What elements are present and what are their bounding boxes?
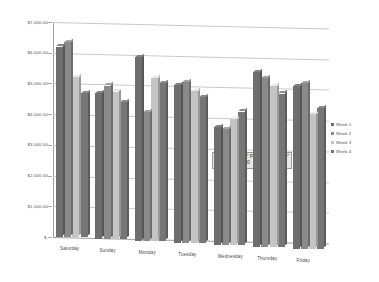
bar-face xyxy=(270,86,277,247)
bar-top xyxy=(214,125,223,127)
bar-face xyxy=(253,72,260,247)
legend-label: Week 2 xyxy=(336,131,351,136)
bar-side xyxy=(316,111,318,247)
legend-item-week-4[interactable]: Week 4 xyxy=(331,147,377,156)
bar-side xyxy=(245,108,247,243)
bar-top xyxy=(270,84,279,86)
bar-face xyxy=(56,47,63,237)
legend-item-week-3[interactable]: Week 3 xyxy=(331,138,377,147)
bar-face xyxy=(191,91,198,243)
bar-side xyxy=(324,105,326,247)
bar-side xyxy=(119,88,121,236)
bar-week-2-sunday[interactable] xyxy=(104,86,111,240)
chart-3d-clustered-column: $-$1,000.00$2,000.00$3,000.00$4,000.00$5… xyxy=(0,0,379,282)
bar-side xyxy=(63,43,65,234)
bar-side xyxy=(221,124,223,243)
bar-side xyxy=(150,109,152,239)
bar-side xyxy=(158,75,160,239)
bar-side xyxy=(111,82,113,237)
bar-face xyxy=(81,93,88,237)
bar-week-1-sunday[interactable] xyxy=(95,93,102,239)
bar-side xyxy=(277,83,279,245)
bar-side xyxy=(88,90,90,235)
bar-week-3-thursday[interactable] xyxy=(270,86,277,247)
x-axis-label-monday: Monday xyxy=(139,250,156,255)
bar-week-4-monday[interactable] xyxy=(159,83,166,241)
bar-side xyxy=(308,80,310,247)
bar-side xyxy=(206,94,208,241)
bar-week-1-tuesday[interactable] xyxy=(174,85,181,243)
x-axis-label-friday: Friday xyxy=(297,258,310,263)
chart-legend: Week 1Week 2Week 3Week 4 xyxy=(331,120,377,156)
bar-week-2-tuesday[interactable] xyxy=(182,82,189,243)
bar-week-1-monday[interactable] xyxy=(135,57,142,241)
bar-face xyxy=(104,86,111,240)
legend-item-week-2[interactable]: Week 2 xyxy=(331,129,377,138)
legend-swatch-icon xyxy=(331,150,334,153)
legend-label: Week 1 xyxy=(336,122,351,127)
legend-swatch-icon xyxy=(331,123,334,126)
bar-week-1-saturday[interactable] xyxy=(56,47,63,237)
bar-side xyxy=(198,88,200,241)
legend-swatch-icon xyxy=(331,132,334,135)
x-axis-label-tuesday: Tuesday xyxy=(178,252,196,257)
x-axis-label-wednesday: Wednesday xyxy=(218,254,243,259)
bar-side xyxy=(268,75,270,245)
bar-side xyxy=(260,69,262,245)
bar-side xyxy=(237,116,239,243)
bar-side xyxy=(285,90,287,245)
x-axis-label-sunday: Sunday xyxy=(99,248,115,253)
bar-side xyxy=(229,126,231,243)
bar-side xyxy=(127,99,129,237)
bar-week-1-wednesday[interactable] xyxy=(214,127,221,245)
bar-week-3-saturday[interactable] xyxy=(72,77,79,237)
bar-side xyxy=(142,54,144,239)
bar-face xyxy=(174,85,181,243)
bar-week-1-friday[interactable] xyxy=(293,86,300,249)
legend-swatch-icon xyxy=(331,141,334,144)
legend-label: Week 3 xyxy=(336,140,351,145)
x-axis-label-saturday: Saturday xyxy=(60,246,79,251)
bar-face xyxy=(182,82,189,243)
legend-item-week-1[interactable]: Week 1 xyxy=(331,120,377,129)
bar-week-4-saturday[interactable] xyxy=(81,93,88,237)
bar-face xyxy=(135,57,142,241)
x-axis-label-thursday: Thursday xyxy=(257,256,277,261)
bar-side xyxy=(300,83,302,247)
bar-face xyxy=(214,127,221,245)
bar-face xyxy=(293,86,300,249)
bar-side xyxy=(181,82,183,241)
legend-label: Week 4 xyxy=(336,149,351,154)
bar-top xyxy=(81,91,90,93)
bar-face xyxy=(72,77,79,237)
bar-face xyxy=(159,83,166,241)
bar-week-1-thursday[interactable] xyxy=(253,72,260,247)
bar-face xyxy=(95,93,102,239)
bar-side xyxy=(71,39,73,235)
bar-week-3-tuesday[interactable] xyxy=(191,91,198,243)
